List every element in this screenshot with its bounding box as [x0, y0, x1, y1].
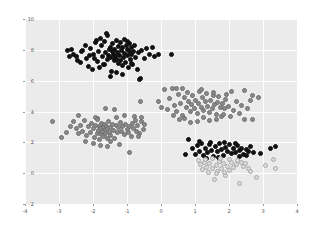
data-point — [183, 152, 188, 157]
data-point — [120, 72, 125, 77]
data-point — [207, 118, 212, 123]
data-point — [68, 124, 73, 129]
gridline-horizontal — [25, 19, 297, 20]
data-point — [201, 115, 206, 120]
x-axis-tick-label: 4 — [295, 209, 298, 214]
scatter-plot-figure: -4-3-2-101234-20246810 — [0, 0, 313, 238]
data-point — [216, 94, 221, 99]
data-point — [214, 117, 219, 122]
x-tick-mark — [93, 204, 94, 206]
data-point — [103, 106, 108, 111]
data-point — [237, 111, 242, 116]
data-point — [133, 55, 138, 60]
data-point — [112, 107, 117, 112]
data-point — [195, 119, 200, 124]
data-point — [129, 134, 134, 139]
data-point — [271, 157, 276, 162]
data-point — [112, 136, 117, 141]
data-point — [108, 139, 113, 144]
data-point — [108, 74, 113, 79]
data-point — [250, 117, 255, 122]
data-point — [117, 142, 122, 147]
data-point — [214, 163, 219, 168]
data-point — [226, 104, 231, 109]
data-point — [136, 134, 141, 139]
data-point — [76, 113, 81, 118]
x-axis-tick-label: -3 — [57, 209, 62, 214]
data-point — [132, 114, 137, 119]
data-point — [174, 86, 179, 91]
data-point — [248, 144, 253, 149]
data-point — [207, 110, 212, 115]
data-point — [125, 39, 130, 44]
x-tick-mark — [59, 204, 60, 206]
data-point — [176, 92, 181, 97]
data-point — [82, 118, 87, 123]
y-axis-tick-label: 0 — [20, 171, 34, 176]
data-point — [207, 161, 212, 166]
data-point — [83, 43, 88, 48]
data-point — [229, 89, 234, 94]
data-point — [98, 36, 103, 41]
data-point — [273, 144, 278, 149]
data-point — [177, 117, 182, 122]
data-point — [235, 158, 240, 163]
data-point — [132, 43, 137, 48]
x-axis-tick-label: 0 — [159, 209, 162, 214]
data-point — [91, 141, 96, 146]
data-point — [209, 148, 214, 153]
data-point — [218, 156, 223, 161]
x-axis-tick-label: 1 — [193, 209, 196, 214]
data-point — [135, 67, 140, 72]
data-point — [242, 117, 247, 122]
data-point — [162, 87, 167, 92]
data-point — [98, 143, 103, 148]
x-tick-mark — [229, 204, 230, 206]
data-point — [185, 90, 190, 95]
data-point — [256, 95, 261, 100]
data-point — [251, 150, 256, 155]
x-axis-tick-label: -1 — [125, 209, 130, 214]
data-point — [199, 87, 204, 92]
data-point — [64, 130, 69, 135]
data-point — [138, 99, 143, 104]
x-tick-mark — [195, 204, 196, 206]
data-point — [228, 114, 233, 119]
data-point — [233, 141, 238, 146]
data-point — [150, 45, 155, 50]
data-point — [250, 93, 255, 98]
data-point — [95, 59, 100, 64]
data-point — [78, 60, 83, 65]
data-point — [182, 116, 187, 121]
y-axis-tick-label: 10 — [20, 17, 34, 22]
data-point — [114, 70, 119, 75]
data-point — [165, 107, 170, 112]
data-point — [239, 103, 244, 108]
data-point — [78, 123, 83, 128]
data-point — [105, 144, 110, 149]
data-point — [144, 46, 149, 51]
x-tick-mark — [263, 204, 264, 206]
data-point — [242, 88, 247, 93]
data-point — [245, 106, 250, 111]
y-axis-tick-label: 2 — [20, 140, 34, 145]
gridline-horizontal — [25, 142, 297, 143]
data-point — [147, 52, 152, 57]
data-point — [79, 49, 84, 54]
data-point — [206, 170, 211, 175]
y-axis-tick-label: -2 — [20, 202, 34, 207]
data-point — [204, 91, 209, 96]
data-point — [237, 181, 242, 186]
data-point — [127, 150, 132, 155]
data-point — [214, 171, 219, 176]
data-point — [102, 39, 107, 44]
data-point — [186, 137, 191, 142]
x-axis-tick-label: -2 — [91, 209, 96, 214]
data-point — [243, 161, 248, 166]
data-point — [195, 111, 200, 116]
data-point — [139, 115, 144, 120]
data-point — [167, 96, 172, 101]
x-axis-tick-label: 2 — [227, 209, 230, 214]
data-point — [221, 112, 226, 117]
x-axis-tick-label: -4 — [23, 209, 28, 214]
